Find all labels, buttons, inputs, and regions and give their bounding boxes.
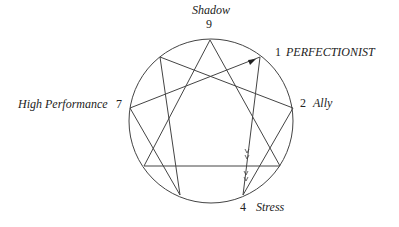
arrow-icon <box>248 59 256 65</box>
point-2-number: 2 <box>300 96 306 111</box>
enneagram-diagram <box>0 0 399 227</box>
label-7-high-performance: High Performance <box>18 97 108 112</box>
label-2-ally: Ally <box>313 96 332 111</box>
enneagram-circle <box>129 39 293 203</box>
point-9-number: 9 <box>206 17 212 32</box>
hexad-1-4-2-8-5-7 <box>130 57 293 195</box>
label-9-shadow: Shadow <box>192 3 230 18</box>
label-1-perfectionist: PERFECTIONIST <box>286 45 375 60</box>
point-7-number: 7 <box>116 97 122 112</box>
point-4-number: 4 <box>240 200 246 215</box>
point-1-number: 1 <box>275 45 281 60</box>
label-4-stress: Stress <box>256 200 284 215</box>
